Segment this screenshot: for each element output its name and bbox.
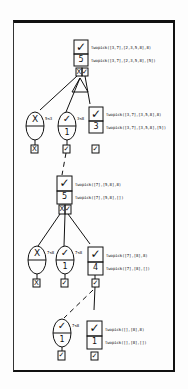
check-icon: ✓ bbox=[87, 322, 102, 334]
node-result: twopick([3,7],[2,3,5,8],[5]) bbox=[91, 58, 156, 63]
check-icon: ✓ bbox=[88, 248, 103, 260]
check-icon: ✓ bbox=[60, 113, 74, 125]
check-icon: ✓ bbox=[57, 177, 72, 189]
node-count: 5 bbox=[57, 192, 72, 202]
node-count: 1 bbox=[60, 128, 74, 138]
check-icon: ✓ bbox=[65, 205, 71, 213]
check-icon: ✓ bbox=[55, 320, 69, 332]
check-icon: ✓ bbox=[89, 108, 103, 120]
node-goal: twopick([3,7],[2,3,5,8],8) bbox=[91, 45, 151, 50]
test-condition: 3<8 bbox=[77, 116, 84, 121]
node-result: twopick([3,7],[3,5,8],[5]) bbox=[106, 125, 166, 130]
check-icon: ✓ bbox=[61, 279, 68, 287]
test-condition: 5<3 bbox=[45, 116, 52, 121]
node-count: 1 bbox=[55, 335, 69, 345]
node-count: 3 bbox=[89, 122, 103, 132]
node-result: twopick([7],[8],[]) bbox=[106, 266, 150, 271]
check-icon: ✓ bbox=[74, 41, 88, 53]
node-count: 4 bbox=[88, 263, 103, 273]
check-icon: ✓ bbox=[58, 247, 72, 259]
node-result: twopick([],[8],[]) bbox=[105, 340, 147, 345]
node-goal: twopick([7],[8],8) bbox=[106, 253, 148, 258]
cross-icon: X bbox=[33, 279, 40, 287]
test-condition: 7<8 bbox=[47, 250, 54, 255]
test-condition: 7<8 bbox=[72, 323, 79, 328]
check-icon: ✓ bbox=[63, 145, 70, 153]
node-goal: twopick([3,7],[3,5,8],8) bbox=[106, 112, 161, 117]
check-icon: ✓ bbox=[92, 279, 99, 287]
cross-icon: X bbox=[31, 249, 43, 257]
test-condition: 7<8 bbox=[75, 250, 82, 255]
check-icon: ✓ bbox=[82, 68, 88, 76]
node-count: 1 bbox=[87, 337, 102, 347]
node-count: 1 bbox=[58, 262, 72, 272]
node-count: 5 bbox=[74, 55, 88, 65]
cross-icon: X bbox=[31, 145, 38, 153]
node-goal: twopick([7],[5,8],8) bbox=[75, 182, 121, 187]
node-goal: twopick([],[8],8) bbox=[105, 327, 144, 332]
node-result: twopick([7],[5,8],[]) bbox=[75, 195, 123, 200]
cross-icon: X bbox=[29, 115, 41, 123]
check-icon: ✓ bbox=[91, 352, 98, 360]
check-icon: ✓ bbox=[58, 351, 65, 359]
check-icon: ✓ bbox=[92, 145, 99, 153]
